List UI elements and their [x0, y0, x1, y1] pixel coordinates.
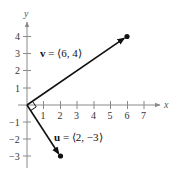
svg-text:3: 3: [74, 110, 79, 121]
svg-text:5: 5: [108, 110, 113, 121]
y-axis-label: y: [23, 8, 29, 19]
svg-text:−3: −3: [9, 151, 20, 162]
svg-text:4: 4: [91, 110, 96, 121]
vector-v-endpoint: [124, 34, 129, 39]
vector-v: [27, 34, 130, 105]
svg-text:3: 3: [15, 48, 20, 59]
svg-text:7: 7: [141, 110, 146, 121]
svg-text:2: 2: [58, 110, 63, 121]
vector-v-label: v = ⟨6, 4⟩: [40, 47, 82, 59]
svg-text:−2: −2: [9, 134, 20, 145]
svg-text:1: 1: [41, 110, 46, 121]
x-tick-labels: 1 2 3 4 5 6 7: [41, 110, 147, 121]
y-tick-labels: 4 3 2 1 −1 −2 −3: [9, 31, 20, 162]
svg-text:2: 2: [15, 65, 20, 76]
y-axis: y 4 3 2 1 −1 −2 −3: [9, 8, 31, 168]
vector-u-endpoint: [58, 153, 63, 158]
svg-text:−1: −1: [9, 117, 20, 128]
x-axis-label: x: [163, 99, 169, 110]
vector-diagram: x 1 2 3 4 5 6 7 y: [0, 0, 177, 172]
x-axis: x 1 2 3 4 5 6 7: [18, 99, 169, 121]
svg-text:1: 1: [15, 83, 20, 94]
svg-text:4: 4: [15, 31, 20, 42]
svg-text:6: 6: [125, 110, 130, 121]
vector-u-label: u = ⟨2, −3⟩: [54, 131, 103, 143]
